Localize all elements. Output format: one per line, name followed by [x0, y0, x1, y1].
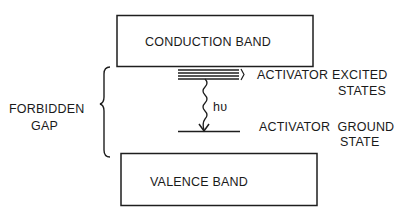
forbidden-gap: FORBIDDEN GAP [9, 67, 110, 157]
forbidden-gap-label-line2: GAP [31, 119, 58, 133]
ground-state: ACTIVATOR GROUND STATE [178, 120, 394, 149]
valence-band-label: VALENCE BAND [150, 175, 248, 189]
valence-band: VALENCE BAND [121, 154, 317, 206]
excited-states-label-line2: STATES [338, 84, 386, 98]
photon-energy-label: hυ [213, 100, 227, 114]
conduction-band-label: CONDUCTION BAND [145, 35, 271, 49]
curly-brace-icon [100, 67, 110, 157]
band-diagram: CONDUCTION BAND VALENCE BAND FORBIDDEN G… [0, 0, 406, 222]
conduction-band: CONDUCTION BAND [117, 16, 313, 67]
emission-transition: hυ [199, 79, 227, 131]
excited-states: ACTIVATOR EXCITED STATES [178, 68, 388, 98]
excited-states-label-line1: ACTIVATOR EXCITED [257, 68, 388, 82]
ground-state-label-line1: ACTIVATOR GROUND [259, 120, 394, 134]
ground-state-label-line2: STATE [340, 135, 379, 149]
angle-bracket-icon [241, 69, 244, 80]
forbidden-gap-label-line1: FORBIDDEN [9, 102, 84, 116]
wavy-arrow-icon [203, 79, 207, 130]
